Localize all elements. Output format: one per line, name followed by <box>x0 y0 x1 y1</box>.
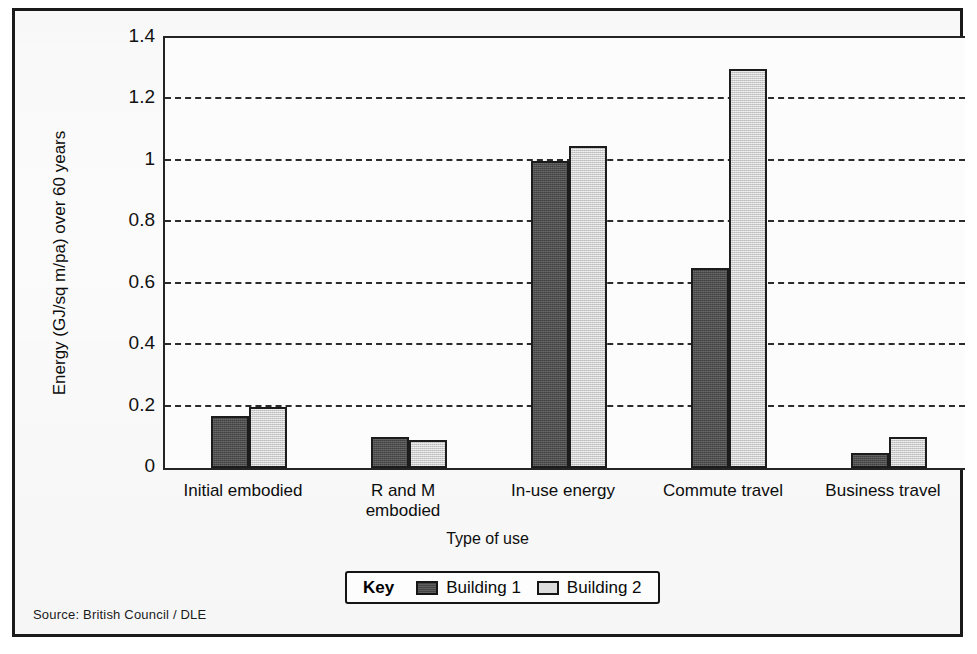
x-axis-category-label: R and Membodied <box>323 481 483 521</box>
bar <box>569 146 607 469</box>
plot-area <box>163 36 965 470</box>
bar <box>889 437 927 468</box>
bar <box>249 407 287 468</box>
legend-swatch-icon <box>416 581 438 595</box>
y-axis-tick-label: 1.4 <box>129 25 155 47</box>
bar <box>729 69 767 468</box>
x-axis-title: Type of use <box>15 530 960 548</box>
bar <box>531 161 569 468</box>
y-axis-tick-label: 0.4 <box>129 332 155 354</box>
y-axis-tick-label: 1.2 <box>129 86 155 108</box>
y-axis-tick-label: 1 <box>144 148 155 170</box>
bar <box>691 268 729 468</box>
legend-entry[interactable]: Building 2 <box>537 578 642 598</box>
legend-entry[interactable]: Building 1 <box>416 578 521 598</box>
y-axis-tick-label: 0.8 <box>129 209 155 231</box>
figure-frame: Energy (GJ/sq m/pa) over 60 years 00.20.… <box>12 8 963 637</box>
legend-title: Key <box>363 578 394 598</box>
bar <box>211 416 249 468</box>
legend-swatch-icon <box>537 581 559 595</box>
bar <box>409 440 447 468</box>
chart-legend[interactable]: Key Building 1Building 2 <box>345 571 660 604</box>
y-axis-title: Energy (GJ/sq m/pa) over 60 years <box>50 103 70 423</box>
y-axis-tick-label: 0 <box>144 455 155 477</box>
bar <box>371 437 409 468</box>
y-axis-tick-label: 0.6 <box>129 271 155 293</box>
y-axis-tick-labels: 00.20.40.60.811.21.4 <box>93 36 155 470</box>
x-axis-category-label: In-use energy <box>483 481 643 501</box>
gridline <box>165 97 965 99</box>
x-axis-category-label: Business travel <box>803 481 963 501</box>
legend-label: Building 1 <box>446 578 521 598</box>
x-axis-category-label: Commute travel <box>643 481 803 501</box>
source-note: Source: British Council / DLE <box>33 607 206 622</box>
y-axis-tick-label: 0.2 <box>129 394 155 416</box>
bar <box>851 453 889 468</box>
bar-chart: Energy (GJ/sq m/pa) over 60 years 00.20.… <box>15 11 960 634</box>
legend-label: Building 2 <box>567 578 642 598</box>
x-axis-category-label: Initial embodied <box>163 481 323 501</box>
